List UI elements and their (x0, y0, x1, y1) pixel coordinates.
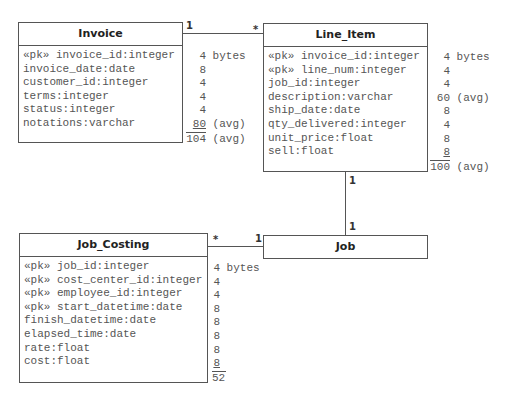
multiplicity-label: 1 (255, 233, 262, 244)
size-total: 52 (212, 371, 226, 386)
attribute-list: «pk» invoice_id:integer invoice_date:dat… (19, 46, 182, 131)
attribute-list: «pk» job_id:integer «pk» cost_center_id:… (20, 257, 207, 369)
size-note: bytes (213, 50, 246, 62)
entity-job: Job (263, 235, 428, 259)
size-note: (avg) (213, 118, 246, 130)
size-value: 4 (430, 78, 450, 92)
size-value: 80 (186, 118, 206, 132)
attribute: description:varchar (268, 91, 427, 105)
size-value: 4 (430, 51, 450, 65)
entity-job-costing: Job_Costing «pk» job_id:integer «pk» cos… (19, 233, 208, 383)
attribute: «pk» job_id:integer (24, 260, 207, 274)
multiplicity-label: 1 (186, 20, 193, 31)
invoice-sizes: 4 bytes 8 4 4 4 80 (avg) 104 (avg) (186, 50, 246, 145)
attribute: invoice_date:date (23, 63, 182, 77)
attribute: rate:float (24, 342, 207, 356)
job-costing-sizes: 4 bytes 4 4 8 8 8 8 8 52 (212, 262, 260, 384)
entity-title: Line_Item (264, 24, 427, 47)
attribute: elapsed_time:date (24, 328, 207, 342)
size-value: 8 (430, 133, 450, 147)
attribute-list: «pk» invoice_id:integer «pk» line_num:in… (264, 47, 427, 159)
entity-invoice: Invoice «pk» invoice_id:integer invoice_… (18, 22, 183, 143)
attribute: «pk» start_datetime:date (24, 301, 207, 315)
attribute: «pk» invoice_id:integer (23, 49, 182, 63)
size-value: 4 (186, 91, 206, 105)
size-value: 8 (430, 105, 450, 119)
size-note: (avg) (457, 92, 490, 104)
size-total: 104 (186, 132, 206, 147)
attribute: qty_delivered:integer (268, 118, 427, 132)
size-value: 4 (186, 50, 206, 64)
size-note: bytes (457, 51, 490, 63)
size-value: 4 (186, 77, 206, 91)
size-value: 4 (212, 262, 220, 276)
line-item-sizes: 4 bytes 4 4 60 (avg) 8 4 8 8 100 (avg) (430, 51, 490, 173)
size-value: 4 (430, 119, 450, 133)
relation-invoice-line-item (183, 33, 263, 34)
multiplicity-label: 1 (349, 221, 356, 232)
attribute: «pk» line_num:integer (268, 64, 427, 78)
size-note: (avg) (213, 133, 246, 145)
entity-title: Job (264, 236, 427, 258)
size-value: 4 (430, 65, 450, 79)
attribute: «pk» cost_center_id:integer (24, 274, 207, 288)
size-value: 8 (186, 64, 206, 78)
attribute: cost:float (24, 355, 207, 369)
entity-title: Invoice (19, 23, 182, 46)
multiplicity-label: * (213, 234, 218, 245)
size-note: (avg) (457, 161, 490, 173)
attribute: ship_date:date (268, 104, 427, 118)
size-value: 8 (212, 330, 220, 344)
attribute: terms:integer (23, 90, 182, 104)
attribute: finish_datetime:date (24, 314, 207, 328)
multiplicity-label: * (253, 24, 258, 35)
attribute: status:integer (23, 103, 182, 117)
size-value: 8 (430, 146, 450, 160)
size-value: 4 (212, 289, 220, 303)
attribute: notations:varchar (23, 117, 182, 131)
attribute: unit_price:float (268, 132, 427, 146)
size-value: 60 (430, 92, 450, 106)
attribute: «pk» invoice_id:integer (268, 50, 427, 64)
multiplicity-label: 1 (349, 175, 356, 186)
attribute: customer_id:integer (23, 76, 182, 90)
entity-line-item: Line_Item «pk» invoice_id:integer «pk» l… (263, 23, 428, 172)
entity-title: Job_Costing (20, 234, 207, 257)
size-note: bytes (227, 262, 260, 274)
attribute: «pk» employee_id:integer (24, 287, 207, 301)
size-value: 8 (212, 303, 220, 317)
size-total: 100 (430, 160, 450, 175)
relation-line-item-job (345, 172, 346, 235)
relation-job-costing-job (208, 246, 263, 247)
attribute: job_id:integer (268, 77, 427, 91)
size-value: 8 (212, 357, 220, 371)
size-value: 4 (186, 104, 206, 118)
size-value: 4 (212, 276, 220, 290)
attribute: sell:float (268, 145, 427, 159)
size-value: 8 (212, 344, 220, 358)
size-value: 8 (212, 316, 220, 330)
